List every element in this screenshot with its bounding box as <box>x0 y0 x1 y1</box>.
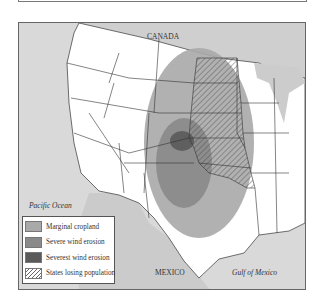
legend-item-severe-wind-erosion: Severe wind erosion <box>25 235 112 251</box>
legend-item-severest-wind-erosion: Severest wind erosion <box>25 250 112 266</box>
legend-label: States losing population <box>46 269 115 277</box>
gulf-of-mexico-label: Gulf of Mexico <box>232 268 277 277</box>
legend-item-states-losing-population: States losing population <box>25 266 112 282</box>
previous-figure-frame <box>18 0 307 2</box>
mexico-label: MEXICO <box>155 268 185 277</box>
legend-label: Severe wind erosion <box>46 238 105 246</box>
severest-wind-erosion-swatch <box>25 252 42 263</box>
states-losing-population-swatch <box>25 268 42 279</box>
map-legend: Marginal cropland Severe wind erosion Se… <box>22 216 115 284</box>
legend-label: Marginal cropland <box>46 223 99 231</box>
canada-label: CANADA <box>147 32 179 41</box>
pacific-ocean-label: Pacific Ocean <box>29 201 72 210</box>
marginal-cropland-swatch <box>25 221 42 232</box>
dust-bowl-map: CANADA Pacific Ocean MEXICO Gulf of Mexi… <box>18 22 306 290</box>
legend-item-marginal-cropland: Marginal cropland <box>25 219 112 235</box>
legend-label: Severest wind erosion <box>46 254 109 262</box>
severe-wind-erosion-swatch <box>25 237 42 248</box>
